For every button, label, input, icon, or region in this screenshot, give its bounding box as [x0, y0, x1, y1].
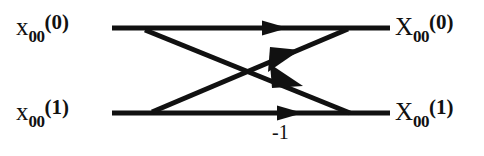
edge-cross-down-arrowhead	[270, 64, 303, 88]
input-label-1-base: x	[16, 98, 29, 125]
twiddle-factor-label: -1	[272, 122, 289, 142]
output-label-0-base: X	[395, 13, 413, 40]
input-label-0-sub: 00	[29, 27, 45, 46]
output-label-1-base: X	[395, 98, 413, 125]
edge-top-straight-arrowhead	[262, 21, 288, 36]
output-label-0-sup: (0)	[429, 10, 454, 34]
butterfly-diagram: x00(0) x00(1) X00(0) X00(1) -1	[0, 0, 484, 156]
output-label-0-sub: 00	[413, 27, 429, 46]
input-label-0-base: x	[16, 13, 29, 40]
input-label-1: x00(1)	[16, 97, 69, 130]
edge-cross-up-arrowhead	[268, 47, 300, 72]
output-label-1-sub: 00	[413, 112, 429, 131]
edge-bottom-straight-arrowhead	[277, 106, 303, 121]
output-label-0: X00(0)	[395, 12, 454, 45]
input-label-0: x00(0)	[16, 12, 69, 45]
input-label-1-sub: 00	[29, 112, 45, 131]
input-label-0-sup: (0)	[45, 10, 70, 34]
output-label-1-sup: (1)	[429, 95, 454, 119]
input-label-1-sup: (1)	[45, 95, 70, 119]
output-label-1: X00(1)	[395, 97, 454, 130]
